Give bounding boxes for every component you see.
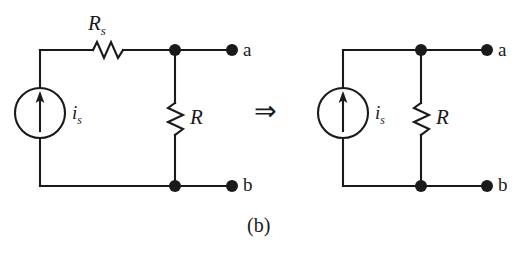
left-series-resistor-subscript: s [101,23,106,38]
right-parallel-resistor-label: R [436,107,449,128]
left-terminal-dot-b [226,180,238,192]
right-junction-dot-bottom [415,180,427,192]
left-terminal-b-label: b [243,175,253,194]
left-source-subscript: s [77,114,82,127]
left-series-resistor-symbol [93,42,123,58]
left-junction-dot-top [169,44,181,56]
left-junction-dot-bottom [169,180,181,192]
left-parallel-resistor-symbol [168,103,183,135]
left-series-resistor-label: Rs [88,13,106,37]
left-parallel-resistor-label: R [190,107,203,128]
right-terminal-a-label: a [498,40,506,59]
right-terminal-b-label: b [498,175,508,194]
right-source-label: is [375,103,385,127]
right-terminal-dot-b [481,180,493,192]
right-parallel-resistor-symbol [414,103,429,135]
left-terminal-a-label: a [243,40,251,59]
right-terminal-dot-a [481,44,493,56]
right-junction-dot-top [415,44,427,56]
implies-arrow-symbol: ⇒ [254,98,277,125]
right-source-subscript: s [380,114,385,127]
circuit-figure: Rs is R a b ⇒ is R a b (b) [0,0,520,254]
left-source-label: is [72,103,82,127]
left-terminal-dot-a [226,44,238,56]
left-series-resistor-letter: R [88,11,101,35]
figure-caption: (b) [247,215,270,235]
